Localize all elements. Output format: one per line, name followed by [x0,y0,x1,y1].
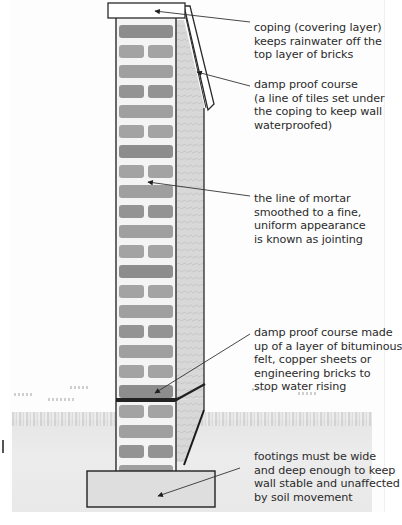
brick [148,365,173,378]
label-jointing: the line of mortar smoothed to a fine, u… [254,192,366,246]
brick [119,205,144,218]
brick [119,325,144,338]
brick [119,285,144,298]
brick [119,445,144,458]
brick [119,165,144,178]
brick [148,205,173,218]
brick [119,305,173,318]
label-coping: coping (covering layer) keeps rainwater … [254,21,382,62]
brick [148,245,173,258]
brick [119,265,173,278]
footing [87,471,215,507]
coping-stone [108,3,185,18]
brick [119,145,173,158]
brick [119,405,144,418]
brick [119,245,144,258]
brick [119,105,173,118]
brick [119,365,144,378]
brick [148,125,173,138]
label-top-damp-proof-course: damp proof course (a line of tiles set u… [254,78,385,132]
brick [148,85,173,98]
brick [119,425,173,438]
brick [148,325,173,338]
label-footings: footings must be wide and deep enough to… [254,450,400,504]
brick [148,285,173,298]
brick [119,185,173,198]
brick [119,345,173,358]
brick [148,45,173,58]
brick [148,445,173,458]
brick [148,405,173,418]
brick [119,125,144,138]
brick [119,45,144,58]
label-lower-damp-proof-course: damp proof course made up of a layer of … [254,326,402,394]
brick [119,65,173,78]
wall-front-face [116,18,176,478]
brick [148,165,173,178]
brick [119,85,144,98]
brick [119,25,173,38]
brick [119,225,173,238]
